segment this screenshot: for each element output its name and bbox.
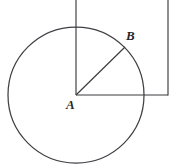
radius-segment-a-to-b (76, 47, 125, 95)
label-point-b: B (126, 29, 135, 42)
geometry-canvas (0, 0, 173, 166)
geometry-figure: A B (0, 0, 173, 166)
label-point-a: A (66, 98, 75, 111)
